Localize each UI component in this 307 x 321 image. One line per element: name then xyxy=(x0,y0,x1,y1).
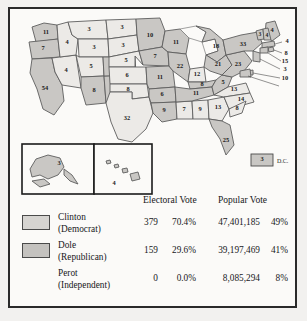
state-label-IN: 12 xyxy=(194,70,200,77)
leader-line-CT xyxy=(268,53,281,61)
electoral-votes-perot: 0 xyxy=(134,273,158,283)
state-label-AZ: 8 xyxy=(92,86,95,93)
state-label-NH: 4 xyxy=(266,32,269,38)
results-table: Electoral Vote Popular Vote Clinton (Dem… xyxy=(10,195,295,306)
state-label-NE: 5 xyxy=(124,56,127,63)
candidate-name-perot: Perot (Independent) xyxy=(58,268,110,291)
state-label-NC: 14 xyxy=(238,95,245,102)
leader-line-MD xyxy=(248,76,279,86)
state-label-SD: 3 xyxy=(121,41,124,48)
state-label-IL: 22 xyxy=(177,62,183,69)
electoral-votes-clinton: 379 xyxy=(134,217,158,227)
state-label-MO: 11 xyxy=(157,73,163,80)
state-label-CA: 54 xyxy=(42,84,49,91)
state-label-TN: 11 xyxy=(193,89,199,96)
electoral-pct-dole: 29.6% xyxy=(164,245,196,255)
popular-pct-clinton: 49% xyxy=(264,217,288,227)
state-label-TX: 32 xyxy=(124,114,130,121)
state-label-MI: 18 xyxy=(213,42,219,49)
table-row: Perot (Independent) 0 0.0% 8,085,294 8% xyxy=(10,269,295,295)
state-label-FL: 25 xyxy=(223,136,229,143)
leader-line-RI xyxy=(274,50,282,53)
table-row: Dole (Republican) 159 29.6% 39,197,469 4… xyxy=(10,241,295,267)
state-CT[interactable] xyxy=(260,47,268,53)
state-label-WV: 5 xyxy=(221,78,224,85)
leader-line-NJ xyxy=(260,59,280,69)
state-label-KY: 8 xyxy=(200,80,203,87)
electoral-pct-perot: 0.0% xyxy=(164,273,196,283)
party-label: (Democrat) xyxy=(58,224,101,236)
hawaii-island-2[interactable] xyxy=(114,164,119,168)
state-label-GA: 13 xyxy=(215,103,221,110)
candidate-label: Perot xyxy=(58,268,78,278)
leader-line-DE xyxy=(253,73,280,78)
state-label-MT: 3 xyxy=(87,25,90,32)
state-label-SC: 8 xyxy=(235,104,238,111)
state-label-OK: 8 xyxy=(126,85,129,92)
state-label-ND: 3 xyxy=(120,23,123,30)
column-header-popular-vote: Popular Vote xyxy=(218,195,267,205)
alaska-value: 3 xyxy=(57,159,60,166)
state-label-RI: 8 xyxy=(284,49,287,56)
hawaii-island-4[interactable] xyxy=(130,172,140,181)
state-label-VT: 3 xyxy=(259,31,262,37)
state-label-OH: 21 xyxy=(215,60,221,67)
dc-value: 3 xyxy=(260,155,263,162)
state-label-WI: 11 xyxy=(173,38,179,45)
state-label-DE: 10 xyxy=(282,74,288,81)
state-label-AL: 9 xyxy=(198,105,201,112)
state-label-MN: 10 xyxy=(147,31,153,38)
state-FL[interactable] xyxy=(209,119,234,155)
popular-pct-perot: 8% xyxy=(264,273,288,283)
map-svg: 11 7 54 4 4 3 3 5 8 5 8 3 3 5 6 8 3 xyxy=(10,9,295,201)
candidate-name-dole: Dole (Republican) xyxy=(58,240,107,263)
state-label-WY: 3 xyxy=(92,43,95,50)
popular-pct-dole: 41% xyxy=(264,245,288,255)
state-label-NY: 33 xyxy=(240,40,246,47)
party-label: (Independent) xyxy=(58,280,110,292)
state-label-WA: 11 xyxy=(43,28,49,35)
state-label-LA: 9 xyxy=(162,106,165,113)
legend-swatch-clinton xyxy=(22,215,50,230)
state-label-CT: 15 xyxy=(282,57,288,64)
party-label: (Republican) xyxy=(58,252,107,264)
state-label-PA: 23 xyxy=(235,60,241,67)
popular-votes-perot: 8,085,294 xyxy=(206,273,260,283)
popular-votes-dole: 39,197,469 xyxy=(206,245,260,255)
state-label-MA: 4 xyxy=(285,37,289,44)
candidate-label: Clinton xyxy=(58,212,86,222)
hawaii-island-1[interactable] xyxy=(106,160,111,164)
column-header-electoral-vote: Electoral Vote xyxy=(143,195,197,205)
candidate-name-clinton: Clinton (Democrat) xyxy=(58,212,101,235)
us-electoral-map: 11 7 54 4 4 3 3 5 8 5 8 3 3 5 6 8 3 xyxy=(10,9,295,201)
legend-swatch-dole xyxy=(22,243,50,258)
leader-line-MA xyxy=(275,42,282,44)
state-RI[interactable] xyxy=(268,47,274,52)
electoral-votes-dole: 159 xyxy=(134,245,158,255)
popular-votes-clinton: 47,401,185 xyxy=(206,217,260,227)
dc-label: D.C. xyxy=(277,158,289,164)
state-label-UT: 5 xyxy=(89,62,92,69)
hawaii-island-3[interactable] xyxy=(122,168,128,173)
state-label-NJ: 3 xyxy=(283,65,286,72)
table-row: Clinton (Democrat) 379 70.4% 47,401,185 … xyxy=(10,213,295,239)
candidate-label: Dole xyxy=(58,240,76,250)
election-map-figure: 11 7 54 4 4 3 3 5 8 5 8 3 3 5 6 8 3 xyxy=(8,7,297,308)
state-NJ[interactable] xyxy=(253,51,260,62)
electoral-pct-clinton: 70.4% xyxy=(164,217,196,227)
state-label-VA: 13 xyxy=(231,85,237,92)
